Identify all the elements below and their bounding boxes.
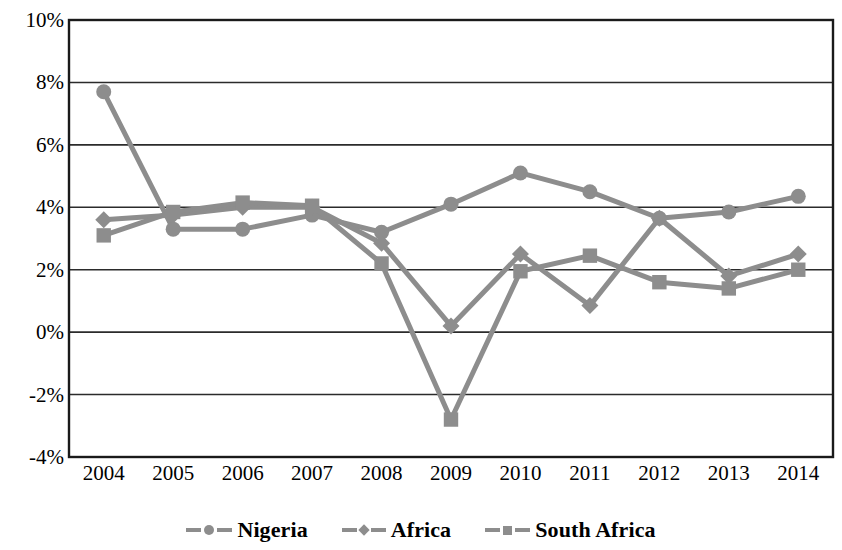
- legend-line-icon: [186, 528, 201, 532]
- circle-marker-icon: [96, 84, 111, 99]
- legend-line-icon: [515, 528, 530, 532]
- square-marker-icon: [513, 264, 527, 278]
- legend-label-africa: Africa: [391, 517, 451, 543]
- x-axis-tick-label: 2009: [411, 462, 491, 484]
- square-marker-icon: [97, 228, 111, 242]
- x-axis-tick-label: 2007: [272, 462, 352, 484]
- x-axis-tick-label: 2006: [203, 462, 283, 484]
- square-marker-icon: [503, 526, 512, 535]
- circle-marker-icon: [204, 525, 214, 535]
- diamond-marker-icon: [790, 246, 807, 263]
- legend-label-south-africa: South Africa: [535, 517, 655, 543]
- circle-marker-icon: [791, 189, 806, 204]
- circle-marker-icon: [235, 222, 250, 237]
- circle-marker-icon: [166, 222, 181, 237]
- circle-marker-icon: [582, 184, 597, 199]
- x-axis-tick-label: 2004: [64, 462, 144, 484]
- legend-item-africa[interactable]: Africa: [342, 517, 451, 543]
- diamond-marker-icon: [95, 211, 112, 228]
- legend-line-icon: [371, 528, 386, 532]
- plot-frame: [69, 20, 833, 457]
- square-marker-icon: [722, 281, 736, 295]
- x-axis-tick-label: 2010: [480, 462, 560, 484]
- legend-line-icon: [217, 528, 232, 532]
- x-axis-labels: 2004200520062007200820092010201120122013…: [0, 462, 842, 496]
- square-marker-icon: [166, 205, 180, 219]
- line-chart: 10%8%6%4%2%0%-2%-4% 20042005200620072008…: [0, 0, 842, 550]
- x-axis-tick-label: 2013: [689, 462, 769, 484]
- square-marker-icon: [791, 263, 805, 277]
- square-marker-icon: [235, 195, 249, 209]
- x-axis-tick-label: 2011: [550, 462, 630, 484]
- x-axis-tick-label: 2012: [619, 462, 699, 484]
- x-axis-tick-label: 2008: [342, 462, 422, 484]
- diamond-marker-icon: [358, 524, 369, 535]
- square-marker-icon: [374, 256, 388, 270]
- x-axis-tick-label: 2014: [758, 462, 838, 484]
- circle-marker-icon: [721, 204, 736, 219]
- square-marker-icon: [444, 412, 458, 426]
- legend-item-nigeria[interactable]: Nigeria: [186, 517, 307, 543]
- legend-line-icon: [342, 528, 357, 532]
- chart-legend: Nigeria Africa South Africa: [0, 512, 842, 548]
- legend-line-icon: [485, 528, 500, 532]
- square-marker-icon: [583, 248, 597, 262]
- legend-item-south-africa[interactable]: South Africa: [485, 517, 655, 543]
- circle-marker-icon: [513, 165, 528, 180]
- legend-label-nigeria: Nigeria: [237, 517, 307, 543]
- x-axis-tick-label: 2005: [133, 462, 213, 484]
- square-marker-icon: [652, 275, 666, 289]
- square-marker-icon: [305, 199, 319, 213]
- gridlines: [69, 82, 833, 394]
- data-series: [95, 84, 807, 426]
- series-nigeria: [96, 84, 806, 239]
- series-africa: [95, 199, 807, 335]
- series-line: [104, 203, 799, 420]
- series-line: [104, 207, 799, 326]
- circle-marker-icon: [444, 197, 459, 212]
- plot-border: [69, 20, 833, 457]
